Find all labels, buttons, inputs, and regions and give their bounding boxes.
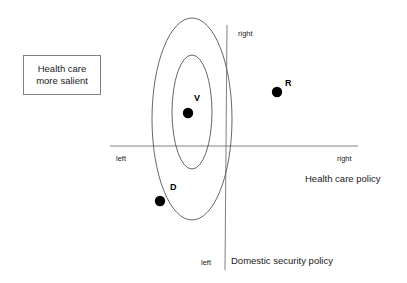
horizontal-axis-title: Health care policy bbox=[305, 173, 381, 184]
callout-line-2: more salient bbox=[36, 75, 88, 87]
horizontal-axis-right-label: right bbox=[337, 154, 352, 163]
diagram-canvas: Health care more salient right left righ… bbox=[0, 0, 407, 283]
horizontal-axis-left-label: left bbox=[116, 154, 126, 163]
vertical-axis-title: Domestic security policy bbox=[231, 255, 333, 266]
point-republican-r bbox=[272, 87, 282, 97]
callout-health-care-more-salient: Health care more salient bbox=[23, 55, 101, 95]
point-label-d: D bbox=[170, 182, 177, 192]
point-label-r: R bbox=[285, 78, 292, 88]
point-label-v: V bbox=[194, 93, 200, 103]
point-democrat-d bbox=[155, 196, 165, 206]
indifference-curve-outer bbox=[152, 18, 232, 220]
vertical-axis-top-label: right bbox=[238, 29, 253, 38]
point-voter-v bbox=[183, 108, 193, 118]
callout-line-1: Health care bbox=[38, 63, 87, 75]
spatial-voting-diagram bbox=[0, 0, 407, 283]
vertical-axis-bottom-label: left bbox=[201, 258, 211, 267]
